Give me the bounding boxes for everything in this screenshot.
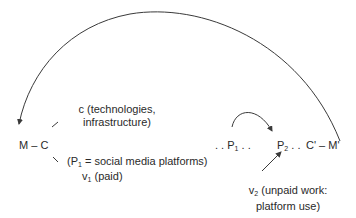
p1-prefix: . . P (215, 139, 235, 151)
constant-capital-line1: c (technologies, (72, 103, 162, 116)
p1-to-p2-arrow (232, 112, 272, 131)
v2-suffix: (unpaid work: (258, 184, 327, 196)
variable-capital-unpaid-label: v2 (unpaid work: platform use) (240, 184, 336, 213)
constant-capital-label: c (technologies, infrastructure) (72, 103, 162, 129)
constant-capital-line2: infrastructure) (72, 116, 162, 129)
commodity-money-prime-label: C' – M' (306, 139, 340, 152)
p1-suffix: . . (238, 139, 250, 151)
money-commodity-label: M – C (19, 139, 48, 152)
variable-capital-paid-label: v1 (paid) (82, 170, 123, 186)
c-branch-line (52, 122, 58, 127)
production-p1-label: . . P1 . . (215, 139, 251, 155)
v1-suffix: (paid) (91, 170, 122, 182)
return-arc-arrow (19, 12, 340, 141)
p1-def-prefix: (P (67, 155, 78, 167)
v1-branch-line (53, 157, 58, 162)
p1-def-suffix: = social media platforms) (82, 155, 208, 167)
v2-line1: v2 (unpaid work: (240, 184, 336, 200)
production-p2-label: P2 . . (277, 139, 300, 155)
p2-suffix: . . (288, 139, 300, 151)
p1-definition-label: (P1 = social media platforms) (67, 155, 208, 171)
v2-line2: platform use) (240, 200, 336, 213)
